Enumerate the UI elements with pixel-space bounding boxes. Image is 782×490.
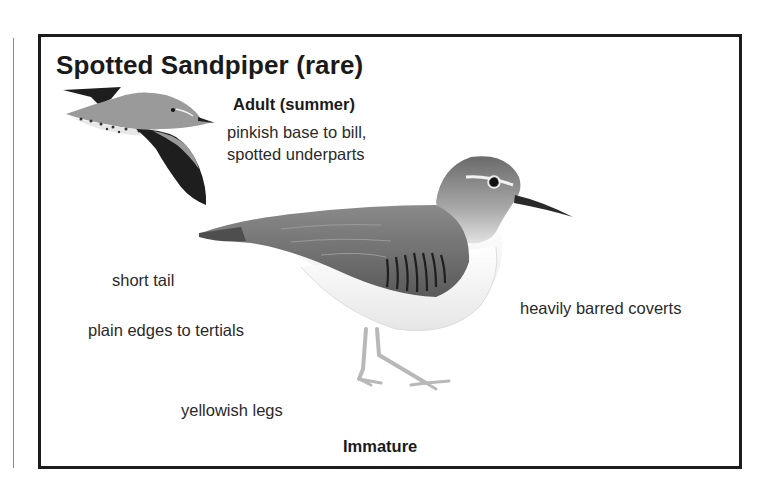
note-short-tail: short tail — [112, 271, 174, 290]
adult-note-underparts: spotted underparts — [227, 143, 365, 165]
adult-note-bill: pinkish base to bill, — [227, 121, 366, 143]
page-title: Spotted Sandpiper (rare) — [56, 50, 363, 81]
adult-summer-heading: Adult (summer) — [233, 95, 355, 114]
note-heavily-barred-coverts: heavily barred coverts — [520, 299, 681, 318]
field-guide-panel: Spotted Sandpiper (rare) Adult (summer) … — [38, 34, 742, 469]
immature-heading: Immature — [343, 437, 417, 456]
page-margin-line — [13, 38, 14, 468]
flying-adult-bird — [63, 87, 215, 205]
standing-immature-bird — [199, 156, 573, 389]
bird-illustrations — [41, 37, 739, 466]
note-plain-edges-tertials: plain edges to tertials — [88, 321, 244, 340]
note-yellowish-legs: yellowish legs — [181, 401, 283, 420]
